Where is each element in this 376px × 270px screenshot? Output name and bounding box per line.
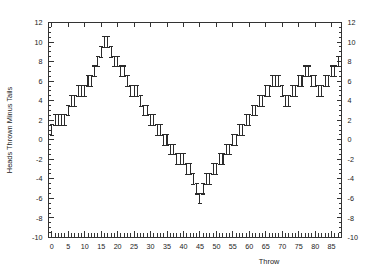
- data-point-marker: [99, 46, 103, 57]
- y-tick-label-left: -8: [36, 214, 42, 223]
- data-point-marker: [158, 125, 162, 136]
- y-tick-label-left: 6: [39, 77, 43, 86]
- data-point-marker: [102, 37, 106, 48]
- data-point-marker: [316, 86, 320, 97]
- data-point-marker: [185, 164, 189, 175]
- data-point-marker: [303, 66, 307, 77]
- data-point-marker: [313, 76, 317, 87]
- y-tick-label-left: 0: [39, 135, 43, 144]
- y-tick-label-left: 12: [35, 18, 43, 27]
- data-point-marker: [211, 164, 215, 175]
- data-point-marker: [188, 164, 192, 175]
- data-point-marker: [109, 46, 113, 57]
- data-point-marker: [86, 76, 90, 87]
- data-point-marker: [231, 134, 235, 145]
- data-point-marker: [323, 76, 327, 87]
- data-point-marker: [56, 115, 60, 126]
- x-tick-label: 85: [328, 242, 336, 251]
- data-point-marker: [89, 76, 93, 87]
- y-tick-label-right: 6: [348, 77, 352, 86]
- data-point-marker: [330, 66, 334, 77]
- data-point-marker: [234, 134, 238, 145]
- x-tick-label: 50: [212, 242, 220, 251]
- data-point-marker: [221, 154, 225, 165]
- data-point-marker: [132, 86, 136, 97]
- data-point-marker: [290, 86, 294, 97]
- y-tick-label-right: 4: [348, 96, 352, 105]
- data-point-marker: [195, 183, 199, 194]
- data-point-marker: [267, 86, 271, 97]
- data-point-marker: [60, 115, 64, 126]
- x-tick-label: 40: [179, 242, 187, 251]
- x-tick-label: 10: [81, 242, 89, 251]
- data-point-marker: [152, 115, 156, 126]
- x-tick-label: 30: [147, 242, 155, 251]
- data-point-marker: [178, 154, 182, 165]
- data-point-marker: [297, 76, 301, 87]
- data-point-marker: [251, 105, 255, 116]
- y-tick-label-right: -2: [348, 155, 354, 164]
- y-tick-label-right: 0: [348, 135, 352, 144]
- data-point-marker: [198, 193, 202, 204]
- x-tick-label: 75: [295, 242, 303, 251]
- y-tick-label-left: 10: [35, 38, 43, 47]
- data-point-marker: [135, 86, 139, 97]
- data-point-marker: [270, 76, 274, 87]
- data-point-marker: [122, 66, 126, 77]
- y-tick-label-left: 8: [39, 57, 43, 66]
- x-tick-label: 70: [278, 242, 286, 251]
- data-point-marker: [264, 86, 268, 97]
- data-point-marker: [306, 66, 310, 77]
- data-point-marker: [53, 115, 57, 126]
- data-point-marker: [139, 95, 143, 106]
- data-point-marker: [280, 86, 284, 97]
- data-point-marker: [208, 173, 212, 184]
- y-tick-label-left: -10: [32, 233, 42, 242]
- data-point-marker: [148, 115, 152, 126]
- y-tick-label-left: -6: [36, 194, 42, 203]
- data-point-marker: [165, 134, 169, 145]
- data-point-marker: [96, 56, 100, 67]
- data-point-marker: [168, 144, 172, 155]
- x-tick-label: 80: [311, 242, 319, 251]
- data-point-marker: [92, 66, 96, 77]
- x-tick-label: 55: [229, 242, 237, 251]
- coin-flip-random-walk-chart: 121210108866442200-2-2-4-4-6-6-8-8-10-10…: [0, 0, 376, 270]
- x-tick-label: 15: [97, 242, 105, 251]
- data-point-marker: [218, 154, 222, 165]
- data-point-marker: [241, 125, 245, 136]
- data-point-marker: [283, 95, 287, 106]
- data-point-marker: [214, 164, 218, 175]
- x-tick-label: 65: [262, 242, 270, 251]
- y-tick-label-right: -4: [348, 174, 354, 183]
- data-point-marker: [106, 37, 110, 48]
- x-tick-label: 20: [114, 242, 122, 251]
- plot-frame: [49, 23, 342, 238]
- data-point-marker: [63, 115, 67, 126]
- data-point-marker: [277, 76, 281, 87]
- y-tick-label-left: -4: [36, 174, 42, 183]
- data-point-marker: [310, 76, 314, 87]
- data-point-marker: [116, 56, 120, 67]
- chart-canvas: 121210108866442200-2-2-4-4-6-6-8-8-10-10…: [0, 0, 376, 270]
- data-point-marker: [142, 105, 146, 116]
- data-point-marker: [172, 144, 176, 155]
- data-point-marker: [181, 154, 185, 165]
- y-tick-label-right: 2: [348, 116, 352, 125]
- data-point-marker: [274, 76, 278, 87]
- data-point-marker: [257, 95, 261, 106]
- data-point-marker: [320, 86, 324, 97]
- data-point-marker: [191, 173, 195, 184]
- data-point-marker: [244, 115, 248, 126]
- data-point-marker: [254, 105, 258, 116]
- x-tick-label: 35: [163, 242, 171, 251]
- data-point-marker: [333, 66, 337, 77]
- data-point-marker: [293, 86, 297, 97]
- data-point-marker: [287, 95, 291, 106]
- y-tick-label-right: -8: [348, 214, 354, 223]
- x-tick-label: 25: [130, 242, 138, 251]
- y-tick-label-left: 2: [39, 116, 43, 125]
- y-tick-label-left: 4: [39, 96, 43, 105]
- data-point-marker: [83, 86, 87, 97]
- y-tick-label-right: 12: [348, 18, 356, 27]
